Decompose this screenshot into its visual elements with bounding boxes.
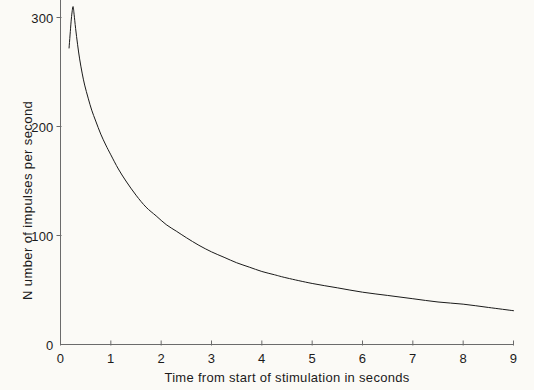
- x-tick-label: 5: [308, 351, 315, 366]
- x-tick-label: 0: [57, 351, 64, 366]
- x-tick-label: 1: [107, 351, 114, 366]
- axis-tick-marks: [57, 18, 514, 346]
- x-tick-label: 6: [359, 351, 366, 366]
- x-tick-label: 8: [459, 351, 466, 366]
- plot-area: [0, 0, 534, 390]
- x-tick-label: 9: [510, 351, 517, 366]
- y-tick-label: 0: [46, 337, 53, 352]
- x-tick-label: 7: [409, 351, 416, 366]
- chart-page: 3002001000 0123456789 N umber of impulse…: [0, 0, 534, 390]
- y-tick-label: 300: [31, 10, 53, 25]
- x-tick-label: 3: [208, 351, 215, 366]
- x-axis-title: Time from start of stimulation in second…: [0, 370, 534, 385]
- data-series-line: [69, 7, 513, 311]
- y-axis-title: N umber of impulses per second: [20, 101, 35, 300]
- x-tick-label: 4: [258, 351, 265, 366]
- x-tick-label: 2: [157, 351, 164, 366]
- axis-lines: [61, 0, 514, 345]
